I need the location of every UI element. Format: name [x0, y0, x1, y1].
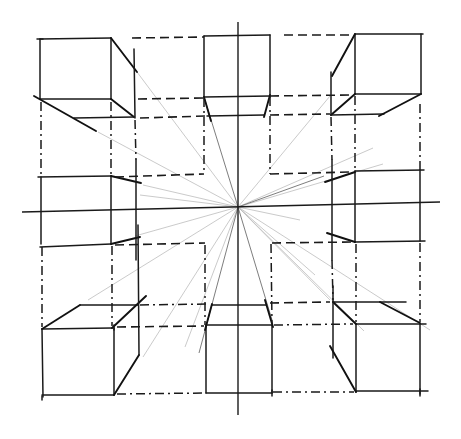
box-bottom-right [330, 286, 428, 394]
box-middle-right [325, 160, 425, 260]
dashed-horizontals [115, 35, 354, 394]
perspective-drawing [0, 0, 461, 439]
box-top-right [331, 34, 423, 116]
box-bottom-center [205, 300, 273, 393]
corner-ticks [37, 39, 420, 400]
box-top-left [34, 38, 137, 131]
box-bottom-left [42, 225, 146, 397]
box-top-center [204, 35, 270, 121]
